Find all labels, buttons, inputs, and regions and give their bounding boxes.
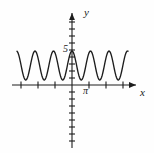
graph-figure: y x π 5 <box>0 0 154 153</box>
y-axis-label: y <box>84 7 89 18</box>
x-axis-arrowhead <box>129 82 136 88</box>
y-axis-arrowhead <box>69 13 75 20</box>
coordinate-plot-svg <box>0 0 154 153</box>
pi-tick-label: π <box>83 86 88 96</box>
x-axis-label: x <box>140 87 145 98</box>
y-value-five-label: 5 <box>63 44 68 54</box>
